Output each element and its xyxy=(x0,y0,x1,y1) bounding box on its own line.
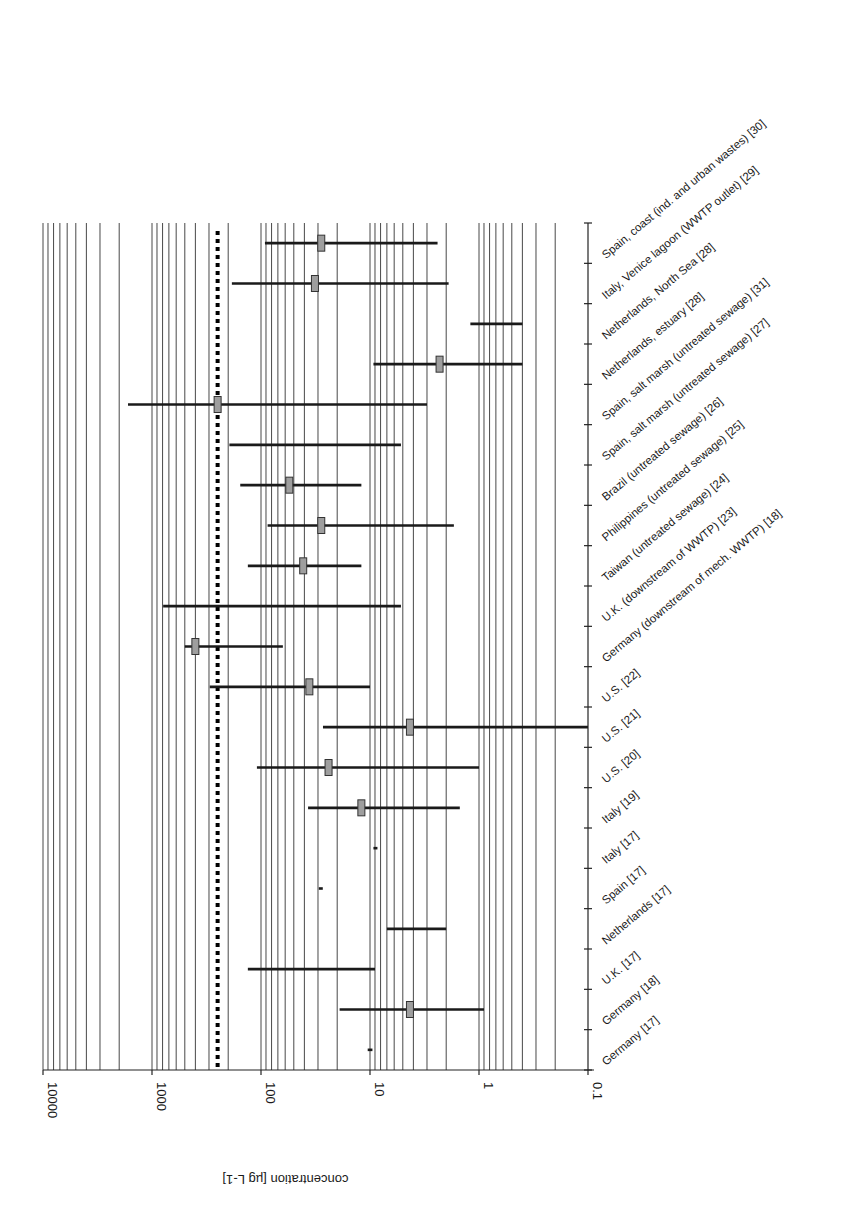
mean-marker xyxy=(318,518,325,534)
mean-marker xyxy=(325,760,332,776)
x-axis-title: concentration [µg L-1] xyxy=(222,1172,348,1187)
mean-marker xyxy=(311,276,318,292)
x-tick-label: 10000 xyxy=(45,1082,60,1118)
range-bar xyxy=(308,800,460,816)
category-label: Spain, salt marsh (untreated sewage) [31… xyxy=(600,276,771,422)
x-axis-tick-labels: 1000010001001010.1 xyxy=(45,1082,605,1118)
range-bar xyxy=(240,477,361,493)
x-tick-label: 10 xyxy=(372,1082,387,1096)
range-bar xyxy=(373,356,522,372)
mean-marker xyxy=(286,477,293,493)
x-tick-label: 1000 xyxy=(154,1082,169,1111)
axes xyxy=(43,223,594,1075)
category-label: U.S. [22] xyxy=(600,667,642,705)
mean-marker xyxy=(300,558,307,574)
range-bar xyxy=(185,639,283,655)
category-label: U.K. [17] xyxy=(600,949,642,987)
range-chart: 1000010001001010.1 Spain, coast (ind. an… xyxy=(0,0,847,1213)
range-bar xyxy=(210,679,370,695)
mean-marker xyxy=(214,397,221,413)
mean-marker xyxy=(192,639,199,655)
mean-marker xyxy=(406,1002,413,1018)
mean-marker xyxy=(318,235,325,251)
mean-marker xyxy=(306,679,313,695)
category-label: U.S. [20] xyxy=(600,747,642,785)
range-bar xyxy=(248,558,362,574)
x-tick-label: 0.1 xyxy=(590,1082,605,1100)
range-bars xyxy=(128,235,588,1050)
category-label: Italy [19] xyxy=(600,788,641,825)
range-bar xyxy=(323,719,588,735)
category-label: Italy [17] xyxy=(600,829,641,866)
category-label: Spain [17] xyxy=(600,864,647,906)
log-gridlines xyxy=(43,223,555,1070)
category-labels: Spain, coast (ind. and urban wastes) [30… xyxy=(600,117,784,1067)
range-bar xyxy=(232,276,449,292)
category-label: Spain, coast (ind. and urban wastes) [30… xyxy=(600,117,768,261)
range-bar xyxy=(265,235,438,251)
mean-marker xyxy=(358,800,365,816)
range-bar xyxy=(268,518,454,534)
category-label: U.S. [21] xyxy=(600,707,642,745)
range-bar xyxy=(257,760,479,776)
mean-marker xyxy=(436,356,443,372)
x-tick-label: 1 xyxy=(481,1082,496,1089)
category-label: Spain, salt marsh (untreated sewage) [27… xyxy=(600,316,771,462)
mean-marker xyxy=(406,719,413,735)
x-tick-label: 100 xyxy=(263,1082,278,1104)
category-label: Germany (downstream of mech. WWTP) [18] xyxy=(600,507,784,664)
range-bar xyxy=(340,1002,484,1018)
